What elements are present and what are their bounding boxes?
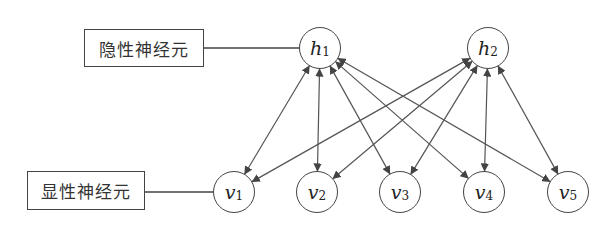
edge bbox=[411, 66, 477, 174]
visible-node-v3: v3 bbox=[379, 171, 421, 213]
node-sub: 2 bbox=[319, 189, 327, 203]
node-var: v bbox=[391, 181, 402, 203]
node-var: v bbox=[308, 181, 319, 203]
node-var: h bbox=[310, 37, 322, 59]
node-sub: 1 bbox=[322, 45, 330, 59]
node-sub: 2 bbox=[490, 45, 498, 59]
edge bbox=[333, 62, 472, 179]
node-var: v bbox=[559, 181, 570, 203]
edge bbox=[498, 66, 558, 173]
edge bbox=[317, 69, 319, 171]
node-var: v bbox=[225, 181, 236, 203]
edge bbox=[252, 58, 469, 181]
node-sub: 3 bbox=[402, 189, 410, 203]
node-sub: 4 bbox=[486, 189, 494, 203]
visible-neuron-label: 显性神经元 bbox=[27, 171, 145, 210]
visible-node-v4: v4 bbox=[463, 171, 505, 213]
hidden-neuron-label: 隐性神经元 bbox=[84, 29, 204, 67]
edge bbox=[485, 69, 488, 171]
node-sub: 1 bbox=[236, 189, 244, 203]
node-var: h bbox=[478, 37, 490, 59]
visible-node-v2: v2 bbox=[296, 171, 338, 213]
visible-node-v1: v1 bbox=[213, 171, 255, 213]
node-sub: 5 bbox=[570, 189, 578, 203]
hidden-node-h2: h2 bbox=[467, 27, 509, 69]
edge bbox=[245, 66, 309, 174]
hidden-node-h1: h1 bbox=[299, 27, 341, 69]
visible-node-v5: v5 bbox=[547, 171, 589, 213]
node-var: v bbox=[475, 181, 486, 203]
